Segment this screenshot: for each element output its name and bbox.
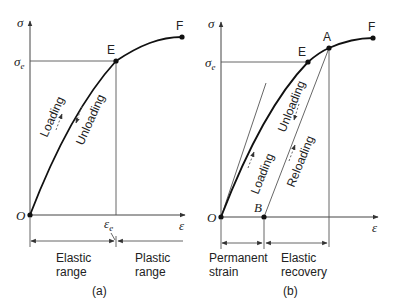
point-E	[113, 58, 118, 63]
point-O	[27, 212, 32, 217]
point-O	[218, 214, 223, 219]
point-A	[326, 45, 331, 50]
origin-label: O	[207, 210, 217, 225]
caption-b: (b)	[283, 284, 298, 298]
loading-label: Loading	[248, 151, 277, 196]
y-axis-label: σ	[17, 15, 24, 30]
elastic-recovery-label-1: Elastic	[281, 251, 316, 265]
point-F-label: F	[176, 19, 183, 33]
permanent-strain-label-2: strain	[209, 265, 238, 279]
eps-e-label: εe	[104, 216, 113, 233]
caption-a: (a)	[92, 284, 107, 298]
point-F-label: F	[368, 20, 375, 34]
elastic-range-label-2: range	[56, 265, 87, 279]
unloading-line	[264, 48, 329, 217]
x-axis-label: ε	[372, 220, 378, 235]
plastic-range-label-2: range	[135, 265, 166, 279]
permanent-strain-label-1: Permanent	[209, 251, 268, 265]
eps-e-pointer	[111, 233, 115, 240]
point-B	[261, 214, 266, 219]
point-F	[179, 34, 184, 39]
point-F	[370, 35, 375, 40]
unloading-label: Unloading	[73, 92, 108, 147]
stress-strain-diagram: σ ε σe εe O E F Loading Unloading Elasti…	[0, 0, 393, 308]
loading-label: Loading	[37, 95, 67, 140]
reloading-label: Reloading	[284, 134, 317, 189]
sigma-e-label: σe	[14, 54, 24, 71]
origin-label: O	[16, 208, 26, 223]
point-A-label: A	[323, 30, 331, 44]
elastic-recovery-label-2: recovery	[281, 265, 327, 279]
stress-strain-curve	[221, 38, 373, 217]
point-E-label: E	[107, 43, 115, 57]
elastic-range-label-1: Elastic	[56, 251, 91, 265]
panel-a: σ ε σe εe O E F Loading Unloading Elasti…	[14, 15, 185, 298]
tangent-line	[221, 83, 266, 217]
y-axis-label: σ	[208, 16, 215, 31]
point-E-label: E	[298, 45, 306, 59]
sigma-e-label: σe	[205, 55, 215, 72]
point-E	[305, 59, 310, 64]
unloading-label: Unloading	[275, 79, 308, 134]
plastic-range-label-1: Plastic	[135, 251, 170, 265]
panel-b: σ ε σe O E A F B Loading Unloading Reloa…	[205, 16, 378, 298]
x-axis-label: ε	[179, 218, 185, 233]
loading-arrow	[248, 152, 254, 168]
point-B-label: B	[254, 200, 262, 215]
